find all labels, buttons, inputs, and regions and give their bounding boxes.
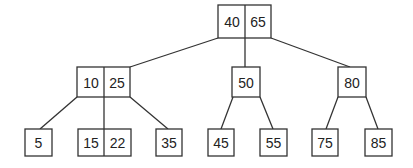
node-right: 80	[338, 67, 366, 97]
edge-root-right	[271, 38, 350, 67]
leaf-5: 5	[25, 129, 52, 156]
node-right-key-1: 80	[344, 75, 360, 91]
leaf-5-key: 5	[35, 135, 43, 151]
leaf-15-22: 15 22	[78, 129, 131, 156]
b-tree-diagram: 40 65 10 25 50 80 5 15 22 35 45 55	[0, 0, 413, 168]
node-root-key-2: 65	[250, 14, 266, 30]
leaf-35-key: 35	[161, 135, 177, 151]
node-left-key-1: 10	[83, 75, 99, 91]
leaf-85-key: 85	[371, 135, 387, 151]
leaf-45-key: 45	[213, 135, 229, 151]
leaf-45: 45	[208, 129, 234, 156]
node-middle-key-1: 50	[238, 75, 254, 91]
leaf-15-22-key-2: 22	[110, 135, 126, 151]
leaf-75: 75	[312, 129, 338, 156]
node-left: 10 25	[77, 67, 130, 97]
node-left-key-2: 25	[109, 75, 125, 91]
edge-root-left	[130, 38, 218, 67]
leaf-55-key: 55	[266, 135, 282, 151]
leaf-85: 85	[365, 129, 392, 156]
leaf-35: 35	[156, 129, 182, 156]
edge-left-leaf-5	[40, 97, 77, 129]
node-root-key-1: 40	[224, 14, 240, 30]
edge-right-leaf-85	[366, 97, 378, 129]
edge-left-leaf-35	[130, 97, 168, 129]
node-middle: 50	[232, 67, 260, 97]
leaf-75-key: 75	[317, 135, 333, 151]
leaf-15-22-key-1: 15	[83, 135, 99, 151]
leaf-55: 55	[260, 129, 287, 156]
edge-middle-leaf-55	[260, 97, 273, 129]
edge-middle-leaf-45	[221, 97, 233, 129]
node-root: 40 65	[218, 5, 271, 38]
edge-right-leaf-75	[326, 97, 338, 129]
